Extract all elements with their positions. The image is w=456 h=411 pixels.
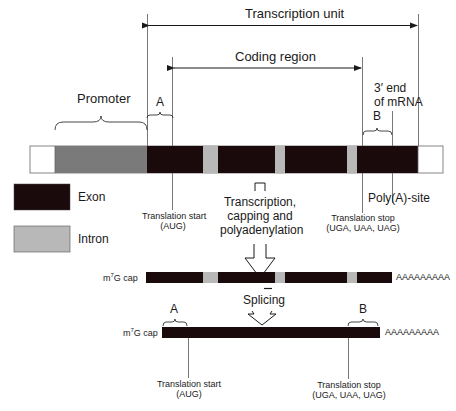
splicing-label: Splicing: [243, 294, 285, 308]
pre-mrna-bar: [146, 272, 392, 283]
three-prime-end-label-line1: 3′ end: [374, 82, 406, 96]
step1-bracket: [255, 183, 265, 191]
gene-bar: [30, 146, 443, 173]
mrna-translation-stop-label: Translation stop (UGA, UAA, UAG): [310, 380, 388, 401]
region-b-brace: [363, 128, 392, 135]
mature-mrna-bar: [162, 327, 380, 338]
pre-mrna-cap-label: m7G cap: [103, 272, 138, 283]
legend-exon-swatch: [14, 184, 70, 210]
mrna-poly-a-tail: AAAAAAAAA: [385, 327, 439, 337]
legend-exon-label: Exon: [78, 191, 105, 205]
promoter-brace: [55, 116, 147, 130]
region-b-label: B: [373, 110, 381, 124]
mrna-region-a-label: A: [170, 303, 178, 317]
region-a-brace: [147, 112, 173, 118]
translation-stop-label: Translation stop (UGA, UAA, UAG): [325, 213, 401, 234]
coding-region-span: [173, 57, 363, 146]
splicing-arrow-icon: [248, 311, 276, 325]
mrna-cap-label: m7G cap: [123, 327, 158, 338]
poly-a-site-label: Poly(A)-site: [368, 192, 430, 206]
transcription-unit-span: [148, 14, 419, 146]
step1-label: Transcription, capping and polyadenylati…: [220, 195, 300, 237]
translation-start-codon: (AUG): [142, 221, 204, 231]
mrna-region-b-brace: [348, 319, 378, 326]
mrna-region-b-label: B: [359, 303, 367, 317]
transcription-unit-label: Transcription unit: [245, 7, 344, 22]
step1-line1: Transcription,: [220, 195, 300, 209]
mrna-translation-start-codon: (AUG): [156, 389, 222, 399]
translation-stop-codons: (UGA, UAA, UAG): [325, 223, 401, 233]
legend-intron-swatch: [14, 226, 70, 252]
three-prime-end-label-line2: of mRNA: [374, 96, 423, 110]
translation-start-text: Translation start: [142, 211, 204, 221]
mrna-region-a-brace: [163, 319, 187, 326]
mrna-translation-stop-text: Translation stop: [310, 380, 388, 390]
mrna-translation-start-label: Translation start (AUG): [156, 379, 222, 400]
legend-intron-label: Intron: [78, 233, 109, 247]
step1-line2: capping and: [220, 209, 300, 223]
coding-region-label: Coding region: [235, 50, 316, 65]
promoter-label: Promoter: [77, 92, 130, 107]
translation-start-label: Translation start (AUG): [142, 211, 204, 232]
mrna-translation-start-text: Translation start: [156, 379, 222, 389]
step1-line3: polyadenylation: [220, 223, 300, 237]
region-a-label: A: [156, 96, 164, 110]
pre-mrna-poly-a-tail: AAAAAAAAA: [396, 272, 450, 282]
translation-stop-text: Translation stop: [325, 213, 401, 223]
mrna-translation-stop-codons: (UGA, UAA, UAG): [310, 390, 388, 400]
